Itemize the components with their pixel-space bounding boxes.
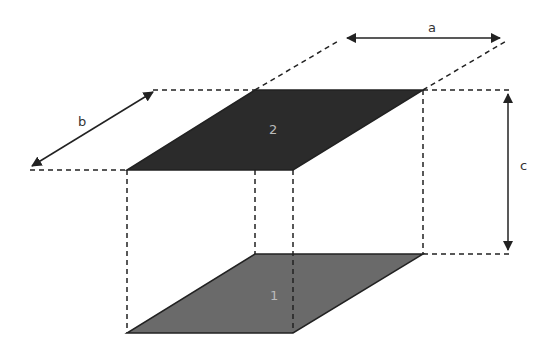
face-1-label: 1 (270, 288, 278, 303)
dimension-b-arrow (32, 92, 153, 166)
dimension-b-label: b (78, 114, 86, 129)
parallelepiped-diagram: a b c 2 1 (0, 0, 553, 352)
face-2-label: 2 (269, 122, 277, 137)
dimension-c-label: c (520, 158, 527, 173)
dimension-a-label: a (428, 20, 436, 35)
